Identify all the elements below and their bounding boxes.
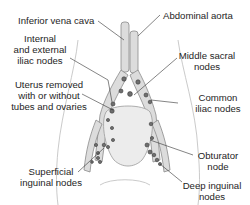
label-obturator-line2: node bbox=[190, 161, 246, 172]
label-internal-external-iliac-line1: Internal bbox=[10, 33, 70, 44]
label-superficial-inguinal-line1: Superficial bbox=[16, 166, 86, 177]
label-superficial-inguinal-line2: inguinal nodes bbox=[16, 177, 86, 188]
abdominal-aorta bbox=[130, 31, 138, 73]
label-common-iliac-line2: iliac nodes bbox=[188, 103, 248, 114]
great-vessels bbox=[121, 22, 138, 73]
lymph-node-diagram: Inferior vena cava Abdominal aorta Inter… bbox=[0, 0, 250, 205]
uterus bbox=[104, 106, 153, 166]
label-deep-inguinal-line2: nodes bbox=[176, 191, 248, 202]
label-uterus-line3: tubes and ovaries bbox=[6, 101, 92, 112]
label-internal-external-iliac-line2: and external bbox=[10, 44, 70, 55]
label-uterus-line2: with or without bbox=[6, 90, 92, 101]
inferior-vena-cava bbox=[121, 22, 129, 72]
label-deep-inguinal-line1: Deep inguinal bbox=[176, 180, 248, 191]
label-inferior-vena-cava: Inferior vena cava bbox=[18, 15, 94, 26]
label-obturator-line1: Obturator bbox=[190, 150, 246, 161]
label-abdominal-aorta: Abdominal aorta bbox=[163, 10, 233, 21]
label-common-iliac-line1: Common bbox=[188, 92, 248, 103]
label-internal-external-iliac-line3: iliac nodes bbox=[10, 55, 70, 66]
label-uterus-line1: Uterus removed bbox=[6, 79, 92, 90]
label-middle-sacral-line1: Middle sacral bbox=[172, 50, 242, 61]
label-middle-sacral-line2: nodes bbox=[172, 61, 242, 72]
